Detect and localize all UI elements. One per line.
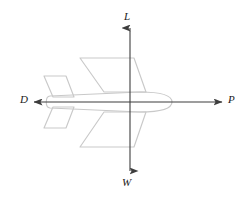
force-diagram-figure: L W D P [0, 0, 252, 203]
lift-label: L [124, 11, 130, 22]
thrust-label: P [228, 94, 235, 105]
force-vectors [34, 28, 222, 171]
tailplane-lower [44, 107, 74, 128]
tailplane-upper [44, 76, 74, 97]
diagram-canvas [0, 0, 252, 203]
wing-upper [80, 58, 146, 92]
weight-label: W [122, 177, 131, 188]
wing-lower [80, 112, 146, 147]
drag-label: D [20, 94, 28, 105]
